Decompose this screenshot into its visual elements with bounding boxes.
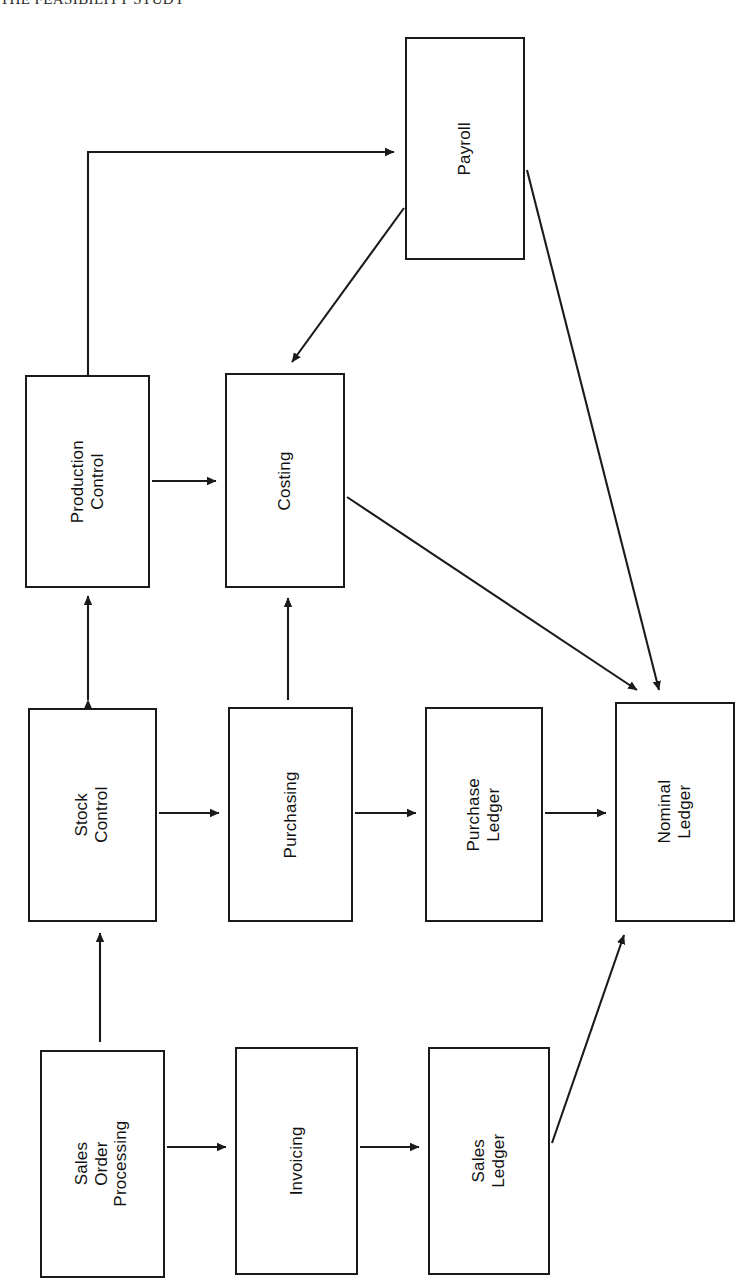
node-purchase-ledger[interactable]: Purchase Ledger (425, 707, 543, 922)
node-production-control[interactable]: Production Control (25, 375, 150, 588)
node-stock-control[interactable]: Stock Control (28, 708, 157, 922)
node-label-payroll: Payroll (455, 122, 475, 175)
node-label-invoicing: Invoicing (287, 1127, 307, 1196)
node-label-stock-control: Stock Control (73, 787, 112, 843)
node-label-sales-ledger: Sales Ledger (469, 1134, 508, 1188)
node-purchasing[interactable]: Purchasing (228, 707, 353, 922)
node-label-purchasing: Purchasing (281, 771, 301, 858)
node-nominal-ledger[interactable]: Nominal Ledger (615, 702, 735, 922)
node-sales-order-processing[interactable]: Sales Order Processing (40, 1050, 165, 1278)
node-label-sales-order-processing: Sales Order Processing (73, 1121, 132, 1207)
node-label-nominal-ledger: Nominal Ledger (655, 780, 694, 844)
node-invoicing[interactable]: Invoicing (235, 1047, 358, 1275)
edge-payroll-to-costing (292, 208, 404, 362)
diagram-page: THE FEASIBILITY STUDY (0, 0, 748, 1283)
node-label-costing: Costing (275, 451, 295, 510)
edge-sales-ledger-to-nominal (552, 935, 624, 1143)
edge-costing-to-nominal (347, 497, 637, 690)
node-label-production-control: Production Control (68, 440, 107, 523)
edge-payroll-to-nominal (527, 170, 659, 690)
node-label-purchase-ledger: Purchase Ledger (464, 778, 503, 851)
edge-production-to-payroll (88, 152, 394, 375)
node-costing[interactable]: Costing (225, 373, 345, 588)
node-sales-ledger[interactable]: Sales Ledger (428, 1047, 550, 1275)
node-payroll[interactable]: Payroll (405, 37, 525, 260)
